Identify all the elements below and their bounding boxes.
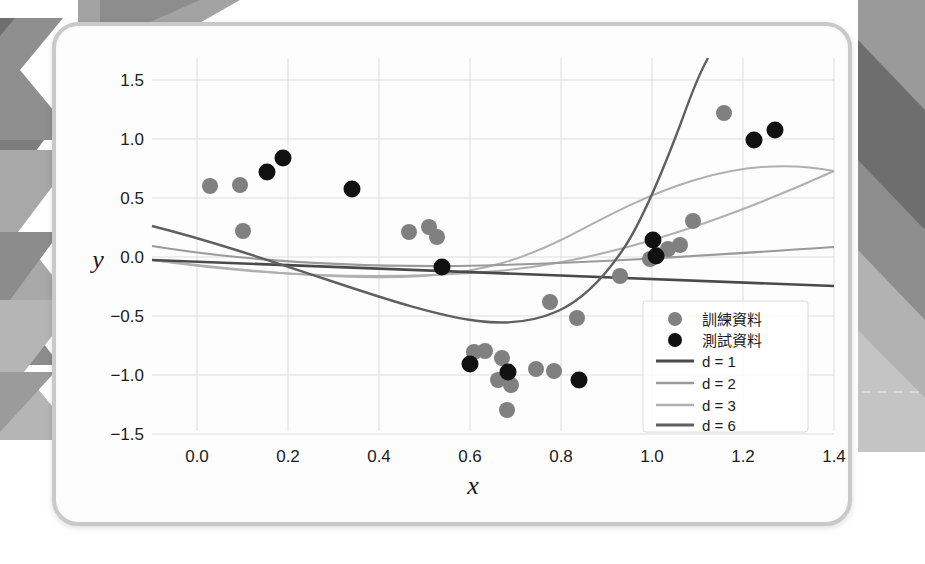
legend-marker-test — [668, 333, 682, 347]
legend-label-d1: d = 1 — [702, 353, 736, 370]
data-point — [542, 294, 558, 310]
legend-label-d3: d = 3 — [702, 397, 736, 414]
data-point — [500, 364, 517, 381]
screenshot-root: 1.5 1.0 0.5 0.0 −0.5 −1.0 −1.5 0.0 0.2 0… — [0, 0, 925, 564]
legend-marker-training — [668, 312, 682, 326]
x-tick-label: 0.2 — [276, 447, 300, 466]
scatter-plot: 1.5 1.0 0.5 0.0 −0.5 −1.0 −1.5 0.0 0.2 0… — [58, 28, 846, 520]
legend-label-test: 測試資料 — [702, 332, 762, 350]
data-point — [232, 177, 248, 193]
data-point — [648, 248, 665, 265]
x-tick-label: 0.0 — [185, 447, 209, 466]
y-tick-label: 0.5 — [120, 189, 144, 208]
legend-label-d6: d = 6 — [702, 417, 736, 434]
x-tick-label: 1.4 — [822, 447, 846, 466]
y-tick-label: −1.5 — [110, 425, 144, 444]
figure-canvas: 1.5 1.0 0.5 0.0 −0.5 −1.0 −1.5 0.0 0.2 0… — [58, 28, 846, 520]
data-point — [746, 132, 763, 149]
x-axis-title: x — [466, 471, 479, 500]
data-point — [202, 178, 218, 194]
data-point — [434, 259, 451, 276]
x-tick-label: 0.8 — [549, 447, 573, 466]
data-point — [546, 363, 562, 379]
data-point — [716, 105, 732, 121]
legend-label-training: 訓練資料 — [702, 311, 762, 329]
x-tick-label: 0.4 — [367, 447, 391, 466]
data-point — [462, 356, 479, 373]
data-point — [401, 224, 417, 240]
y-tick-label: 0.0 — [120, 248, 144, 267]
x-tick-label: 0.6 — [458, 447, 482, 466]
data-point — [259, 164, 276, 181]
data-point — [672, 237, 688, 253]
data-point — [645, 232, 662, 249]
y-tick-label: −0.5 — [110, 307, 144, 326]
data-point — [612, 268, 628, 284]
y-tick-label: 1.5 — [120, 71, 144, 90]
x-tick-label: 1.0 — [640, 447, 664, 466]
data-point — [571, 372, 588, 389]
data-point — [499, 402, 515, 418]
data-point — [275, 150, 292, 167]
y-axis-title: y — [89, 245, 104, 274]
data-point — [767, 122, 784, 139]
data-point — [429, 229, 445, 245]
data-point — [569, 310, 585, 326]
y-tick-label: 1.0 — [120, 130, 144, 149]
data-point — [235, 223, 251, 239]
data-point — [685, 213, 701, 229]
x-tick-label: 1.2 — [731, 447, 755, 466]
data-point — [344, 181, 361, 198]
chart-legend: 訓練資料 測試資料 d = 1 d = 2 d = 3 d = 6 — [643, 301, 808, 434]
data-point — [528, 361, 544, 377]
data-point — [477, 343, 493, 359]
y-tick-label: −1.0 — [110, 366, 144, 385]
legend-label-d2: d = 2 — [702, 375, 736, 392]
